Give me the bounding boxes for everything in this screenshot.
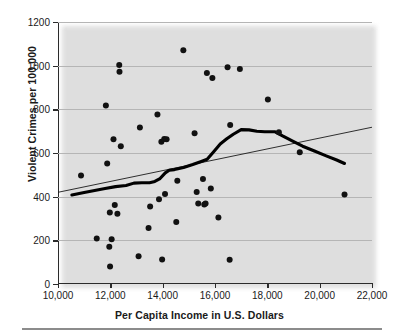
scatter-point: [194, 189, 200, 195]
scatter-point: [136, 253, 142, 259]
scatter-point: [164, 136, 170, 142]
scatter-point: [162, 191, 168, 197]
scatter-point: [94, 236, 100, 242]
scatter-point: [107, 209, 113, 215]
regression-line: [58, 127, 372, 192]
scatter-point: [116, 69, 122, 75]
scatter-point: [225, 64, 231, 70]
scatter-point: [204, 70, 210, 76]
scatter-point: [112, 202, 118, 208]
scatter-point: [209, 75, 215, 81]
x-tick-label: 12,000: [95, 290, 126, 301]
scatter-point: [174, 178, 180, 184]
scatter-point: [215, 214, 221, 220]
scatter-point: [173, 219, 179, 225]
y-axis-title: Violent Crimes per 100,000: [26, 0, 38, 239]
scatter-point: [159, 257, 165, 263]
scatter-point: [208, 186, 214, 192]
x-tick-label: 20,000: [304, 290, 335, 301]
y-tick-label: 0: [44, 279, 50, 290]
x-tick-label: 22,000: [357, 290, 388, 301]
x-tick-mark: [372, 283, 373, 288]
scatter-point: [137, 124, 143, 130]
y-tick-label: 400: [33, 191, 50, 202]
scatter-point: [276, 129, 282, 135]
scatter-point: [265, 97, 271, 103]
scatter-point: [200, 176, 206, 182]
y-tick-label: 800: [33, 104, 50, 115]
scatter-point: [297, 149, 303, 155]
scatter-point: [104, 160, 110, 166]
footer-divider: [22, 328, 382, 330]
scatter-point: [103, 102, 109, 108]
scatter-points: [78, 47, 347, 269]
scatter-point: [192, 130, 198, 136]
x-tick-label: 18,000: [252, 290, 283, 301]
scatter-plot-figure: Violent Crimes per 100,000 0200400600800…: [0, 0, 399, 333]
scatter-point: [203, 200, 209, 206]
scatter-point: [237, 66, 243, 72]
scatter-point: [78, 172, 84, 178]
scatter-point: [106, 244, 112, 250]
scatter-point: [107, 264, 113, 270]
y-tick-label: 1000: [28, 60, 50, 71]
x-tick-label: 16,000: [200, 290, 231, 301]
scatter-point: [109, 236, 115, 242]
y-tick-label: 600: [33, 148, 50, 159]
scatter-point: [114, 211, 120, 217]
scatter-point: [118, 143, 124, 149]
scatter-point: [156, 196, 162, 202]
y-tick-label: 200: [33, 235, 50, 246]
scatter-point: [195, 200, 201, 206]
plot-area: 020040060080010001200 10,00012,00014,000…: [58, 22, 372, 284]
scatter-point: [146, 225, 152, 231]
scatter-point: [154, 112, 160, 118]
scatter-point: [227, 257, 233, 263]
x-tick-label: 10,000: [43, 290, 74, 301]
scatter-point: [180, 47, 186, 53]
scatter-point: [342, 191, 348, 197]
scatter-point: [116, 62, 122, 68]
scatter-point: [110, 136, 116, 142]
x-axis-title: Per Capita Income in U.S. Dollars: [0, 309, 399, 321]
scatter-point: [147, 203, 153, 209]
scatter-point: [227, 122, 233, 128]
y-tick-label: 1200: [28, 17, 50, 28]
x-tick-label: 14,000: [147, 290, 178, 301]
data-layer: [58, 22, 372, 284]
